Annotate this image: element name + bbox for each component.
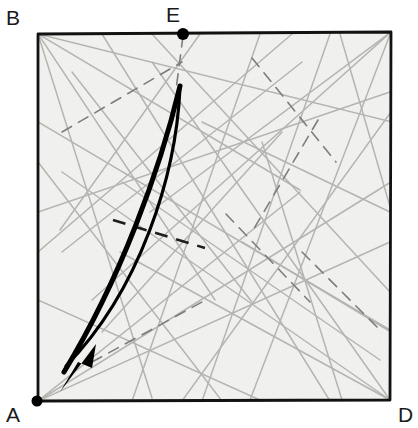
corner-label-a: A: [6, 404, 20, 425]
point-E-dot: [177, 28, 189, 40]
corner-label-b: B: [6, 7, 20, 28]
corner-label-d: D: [398, 404, 413, 425]
point-A-dot: [32, 396, 43, 407]
point-label-e: E: [166, 4, 180, 25]
origami-diagram: [0, 0, 418, 428]
